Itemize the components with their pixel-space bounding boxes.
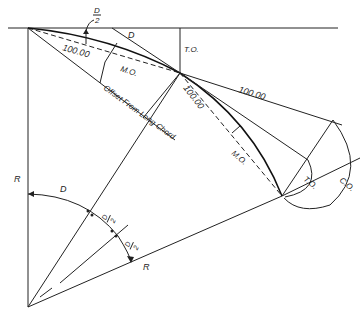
arrowhead-left <box>28 191 34 197</box>
chord-length-2-label: 100.00 <box>181 83 206 111</box>
middle-ordinate-1 <box>105 43 117 62</box>
svg-text:2: 2 <box>131 244 139 251</box>
middle-ordinate-2-label: M.O. <box>230 149 249 167</box>
half-deflection-label-num: D <box>94 6 100 15</box>
bisector-radius-dash <box>40 288 52 297</box>
tick-4 <box>115 235 118 238</box>
bisector-radius <box>60 225 128 283</box>
curve-layout-diagram: D 2 D T.O. 100.00 100.00 100.00 M.O. M.O… <box>0 0 362 314</box>
tick-2 <box>91 214 94 217</box>
middle-ordinate-1-label: M.O. <box>119 64 138 78</box>
radius-label-left: R <box>14 174 21 184</box>
offset-long-chord-line-2 <box>143 73 180 118</box>
deflection-label-top: D <box>128 30 135 40</box>
tangent-offset-top-label: T.O. <box>184 45 199 54</box>
middle-ordinate-2 <box>232 126 240 133</box>
svg-text:2: 2 <box>108 217 116 224</box>
tangent-offset-right-label: T.O. <box>302 175 319 191</box>
tangent-length-label: 100.00 <box>237 84 266 102</box>
radius-label-bottom: R <box>143 262 150 272</box>
tick-1 <box>87 210 90 213</box>
half-angle-1-label: D 2 <box>100 212 118 226</box>
radius-line-to-b <box>28 73 180 307</box>
arrowhead-bottom <box>127 256 134 263</box>
offset-long-chord-label: Offset From Long Chord <box>102 83 178 141</box>
offset-long-chord-line <box>100 62 105 83</box>
radius-line-to-c <box>28 196 282 307</box>
svg-text:D: D <box>100 213 108 221</box>
tick-3 <box>111 230 114 233</box>
chord-offset-label: C.O. <box>338 176 356 193</box>
co-arc-right <box>284 120 351 209</box>
half-deflection-leader <box>86 20 94 31</box>
central-angle-label: D <box>60 184 67 194</box>
half-deflection-label-den: 2 <box>94 16 100 25</box>
half-angle-2-label: D 2 <box>123 239 141 253</box>
